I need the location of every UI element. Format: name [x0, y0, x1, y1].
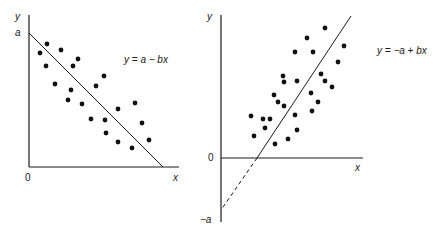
scatter-point — [305, 36, 310, 41]
right-equation: y = −a + bx — [376, 45, 428, 56]
scatter-point — [80, 102, 85, 107]
scatter-point — [38, 51, 43, 56]
right-extrapolation-dashed — [221, 158, 257, 210]
scatter-point — [263, 126, 268, 131]
scatter-point — [44, 64, 49, 69]
left-y-label: y — [14, 11, 21, 22]
scatter-point — [311, 50, 316, 55]
scatter-point — [293, 50, 298, 55]
scatter-point — [66, 98, 71, 103]
scatter-point — [295, 128, 300, 133]
scatter-point — [268, 117, 273, 122]
scatter-point — [116, 107, 121, 112]
right-intercept-label: −a — [200, 214, 212, 225]
scatter-point — [102, 74, 107, 79]
scatter-point — [330, 85, 335, 90]
regression-diagram: y a 0 x y = a − bx y 0 x −a y = −a + bx — [0, 0, 448, 235]
scatter-point — [130, 146, 135, 151]
scatter-point — [94, 84, 99, 89]
scatter-point — [286, 137, 291, 142]
right-scatter-points — [249, 26, 347, 147]
scatter-point — [323, 26, 328, 31]
scatter-point — [71, 64, 76, 69]
scatter-point — [310, 109, 315, 114]
scatter-point — [293, 113, 298, 118]
scatter-point — [249, 114, 254, 119]
left-origin-label: 0 — [25, 172, 31, 183]
scatter-point — [309, 91, 314, 96]
scatter-point — [252, 134, 257, 139]
scatter-point — [282, 104, 287, 109]
scatter-point — [276, 100, 281, 105]
scatter-point — [133, 101, 138, 106]
scatter-point — [336, 60, 341, 65]
right-origin-label: 0 — [208, 152, 214, 163]
right-y-label: y — [206, 11, 213, 22]
left-panel: y a 0 x y = a − bx — [14, 11, 179, 183]
left-x-label: x — [172, 172, 179, 183]
scatter-point — [103, 118, 108, 123]
scatter-point — [281, 74, 286, 79]
right-regression-line — [257, 16, 351, 158]
scatter-point — [323, 79, 328, 84]
scatter-point — [45, 42, 50, 47]
right-x-label: x — [354, 162, 361, 173]
scatter-point — [272, 93, 277, 98]
scatter-point — [261, 117, 266, 122]
scatter-point — [273, 142, 278, 147]
left-intercept-label: a — [15, 27, 21, 38]
scatter-point — [53, 82, 58, 87]
scatter-point — [116, 140, 121, 145]
scatter-point — [76, 57, 81, 62]
left-equation: y = a − bx — [123, 54, 169, 65]
scatter-point — [316, 100, 321, 105]
scatter-point — [59, 48, 64, 53]
scatter-point — [342, 44, 347, 49]
scatter-point — [319, 72, 324, 77]
scatter-point — [89, 117, 94, 122]
scatter-point — [104, 131, 109, 136]
right-panel: y 0 x −a y = −a + bx — [200, 11, 428, 225]
scatter-point — [282, 80, 287, 85]
scatter-point — [69, 88, 74, 93]
scatter-point — [140, 121, 145, 126]
scatter-point — [147, 138, 152, 143]
diagram-svg: y a 0 x y = a − bx y 0 x −a y = −a + bx — [0, 0, 448, 235]
scatter-point — [295, 79, 300, 84]
